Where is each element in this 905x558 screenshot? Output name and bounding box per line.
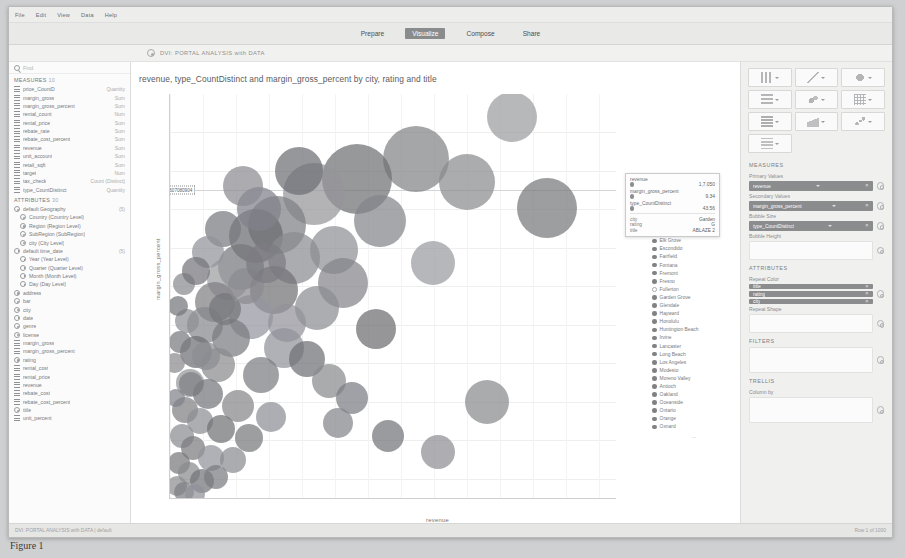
bubble-point[interactable]	[256, 402, 286, 432]
viz-type-heatmap-icon[interactable]	[841, 90, 885, 109]
bubble-point[interactable]	[204, 465, 228, 489]
field-row[interactable]: type_CountDistinctQuantity	[9, 186, 130, 194]
field-row[interactable]: targetNum	[9, 169, 130, 177]
legend-item[interactable]: Fairfield	[652, 253, 736, 261]
legend-item[interactable]: Honolulu	[652, 318, 736, 326]
field-row[interactable]: genre	[9, 322, 130, 330]
remove-icon[interactable]: ×	[865, 183, 868, 188]
chevron-down-icon[interactable]	[816, 185, 820, 187]
chevron-down-icon[interactable]	[868, 99, 872, 101]
gear-icon-filters[interactable]	[877, 356, 885, 364]
field-row[interactable]: Day (Day Level)	[9, 280, 130, 288]
bubble-point[interactable]	[185, 484, 205, 499]
field-row[interactable]: rating	[9, 356, 130, 364]
field-row[interactable]: revenue	[9, 381, 130, 389]
field-row[interactable]: price_CountDQuantity	[9, 85, 130, 93]
field-row[interactable]: address	[9, 289, 130, 297]
legend-item[interactable]: Long Beach	[652, 350, 736, 358]
secondary-values-chip[interactable]: margin_gross_percent ×	[749, 201, 873, 211]
legend-item[interactable]: Oakland	[652, 391, 736, 399]
field-row[interactable]: title	[9, 406, 130, 414]
field-row[interactable]: city (City Level)	[9, 238, 130, 246]
legend-item[interactable]: Fresno	[652, 277, 736, 285]
chevron-down-icon[interactable]	[832, 205, 836, 207]
bubble-point[interactable]	[354, 195, 406, 247]
field-row[interactable]: Month (Month Level)	[9, 272, 130, 280]
legend-item[interactable]: Oxnard	[652, 423, 736, 431]
bubble-size-chip[interactable]: type_CountDistinct ×	[749, 221, 873, 231]
bubble-point[interactable]	[207, 415, 235, 443]
tab-prepare[interactable]: Prepare	[354, 28, 391, 39]
menu-item-help[interactable]: Help	[105, 12, 117, 18]
field-row[interactable]: bar	[9, 297, 130, 305]
field-row[interactable]: unit_accountSum	[9, 152, 130, 160]
field-row[interactable]: license	[9, 331, 130, 339]
remove-icon[interactable]: ×	[865, 223, 868, 228]
gear-icon-secondary[interactable]	[877, 202, 885, 210]
chevron-down-icon[interactable]	[775, 77, 779, 79]
viz-type-area-chart-icon[interactable]	[795, 112, 839, 131]
bubble-point[interactable]	[421, 435, 455, 469]
repeat-color-chip[interactable]: title×	[749, 284, 873, 289]
menu-item-view[interactable]: View	[57, 12, 70, 18]
legend-item[interactable]: Glendale	[652, 302, 736, 310]
legend-item[interactable]: Los Angeles	[652, 358, 736, 366]
field-row[interactable]: tax_checkCount (Distinct)	[9, 177, 130, 185]
chevron-down-icon[interactable]	[868, 77, 872, 79]
filters-dropzone[interactable]	[749, 347, 873, 373]
search-row[interactable]: Find	[9, 62, 130, 74]
legend-item[interactable]: Lancaster	[652, 342, 736, 350]
tab-visualize[interactable]: Visualize	[405, 28, 445, 39]
legend-item[interactable]: Garden Grove	[652, 293, 736, 301]
chevron-down-icon[interactable]	[828, 225, 832, 227]
field-row[interactable]: rebate_cost	[9, 389, 130, 397]
field-row[interactable]: Year (Year Level)	[9, 255, 130, 263]
bubble-point[interactable]	[243, 357, 279, 393]
chevron-down-icon[interactable]	[821, 77, 825, 79]
chevron-down-icon[interactable]	[775, 99, 779, 101]
field-row[interactable]: Region (Region Level)	[9, 222, 130, 230]
repeat-color-chip[interactable]: rating×	[749, 291, 873, 296]
field-row[interactable]: rental_price	[9, 372, 130, 380]
viz-type-table-icon[interactable]	[748, 134, 792, 153]
primary-values-chip[interactable]: revenue ×	[749, 181, 873, 191]
bubble-point[interactable]	[517, 178, 577, 238]
field-row[interactable]: margin_grossSum	[9, 93, 130, 101]
field-row[interactable]: rebate_cost_percentSum	[9, 135, 130, 143]
legend-item[interactable]: Fontana	[652, 261, 736, 269]
tab-share[interactable]: Share	[516, 28, 548, 39]
bubble-point[interactable]	[182, 257, 210, 285]
tab-compose[interactable]: Compose	[459, 28, 501, 39]
legend-item[interactable]: Ontario	[652, 407, 736, 415]
field-row[interactable]: unit_percent	[9, 414, 130, 422]
viz-type-column-chart-icon[interactable]	[748, 90, 792, 109]
legend-item[interactable]: Antioch	[652, 382, 736, 390]
bubble-point[interactable]	[323, 408, 353, 438]
bubble-height-dropzone[interactable]	[749, 241, 873, 260]
field-row[interactable]: rebate_rateSum	[9, 127, 130, 135]
viz-type-bar-chart-icon[interactable]	[748, 68, 792, 87]
remove-icon[interactable]: ×	[865, 203, 868, 208]
menu-item-file[interactable]: File	[15, 12, 25, 18]
field-row[interactable]: revenueSum	[9, 144, 130, 152]
field-row[interactable]: margin_gross	[9, 339, 130, 347]
viz-type-scatter-chart-icon[interactable]	[841, 112, 885, 131]
field-row[interactable]: rental_countNum	[9, 110, 130, 118]
repeat-color-chip[interactable]: city×	[749, 299, 873, 304]
field-row[interactable]: rental_cost	[9, 364, 130, 372]
legend-item[interactable]: Hayward	[652, 310, 736, 318]
menu-item-data[interactable]: Data	[81, 12, 94, 18]
field-row[interactable]: default time_date(5)	[9, 247, 130, 255]
bubble-point[interactable]	[223, 166, 263, 206]
chevron-down-icon[interactable]	[775, 143, 779, 145]
bubble-point[interactable]	[268, 304, 306, 342]
plot-area[interactable]: 16.0014.0012.0010.008.006.004.002.000.00…	[169, 94, 616, 499]
bubble-point[interactable]	[275, 147, 323, 195]
field-row[interactable]: SubRegion (SubRegion)	[9, 230, 130, 238]
viz-type-bubble-chart-icon[interactable]	[795, 90, 839, 109]
legend-item[interactable]: Oceanside	[652, 399, 736, 407]
viz-type-line-chart-icon[interactable]	[795, 68, 839, 87]
field-row[interactable]: retail_sqftSum	[9, 160, 130, 168]
legend-item[interactable]: Moreno Valley	[652, 374, 736, 382]
legend-item[interactable]: Orange	[652, 415, 736, 423]
